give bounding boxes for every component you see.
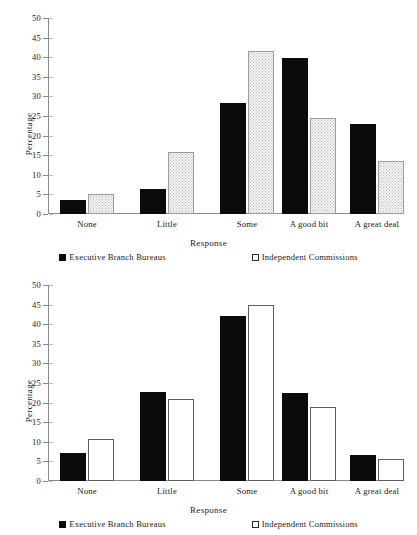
bar-group: Little (134, 285, 200, 481)
legend-label-independent-bottom: Independent Commissions (262, 519, 358, 529)
x-category-label: Some (214, 219, 280, 229)
bar-executive (350, 455, 376, 481)
bar-executive (220, 316, 246, 481)
chart-panel-top: Percentage 05101520253035404550 NoneLitt… (0, 0, 417, 267)
bar-group: Some (214, 18, 280, 214)
y-tick-label: 10 (32, 438, 41, 447)
x-category-label: None (54, 219, 120, 229)
y-tick-mark-inner (49, 481, 53, 482)
x-category-label: Little (134, 486, 200, 496)
y-tick-label: 45 (32, 300, 41, 309)
x-category-label: A great deal (344, 486, 410, 496)
x-axis-title-bottom: Response (0, 505, 417, 515)
x-category-label: A great deal (344, 219, 410, 229)
y-tick-label: 25 (32, 112, 41, 121)
bar-independent (378, 161, 404, 214)
legend-top: Executive Branch Bureaus Independent Com… (0, 252, 417, 262)
y-tick-label: 10 (32, 171, 41, 180)
bar-executive (140, 392, 166, 481)
x-category-label: Little (134, 219, 200, 229)
bar-executive (282, 393, 308, 481)
y-tick-mark (43, 214, 48, 215)
legend-item-executive-top: Executive Branch Bureaus (59, 252, 165, 262)
bar-group: None (54, 285, 120, 481)
bar-group-container-bottom: NoneLittleSomeA good bitA great deal (48, 285, 400, 481)
y-tick-label: 40 (32, 53, 41, 62)
y-tick-label: 35 (32, 340, 41, 349)
legend-item-independent-top: Independent Commissions (252, 252, 358, 262)
y-tick-label: 50 (32, 14, 41, 23)
legend-label-executive-bottom: Executive Branch Bureaus (69, 519, 165, 529)
y-tick-label: 20 (32, 131, 41, 140)
y-tick-label: 50 (32, 281, 41, 290)
bar-group: A good bit (276, 18, 342, 214)
bar-group: A good bit (276, 285, 342, 481)
filled-square-icon (59, 254, 66, 261)
plot-area-bottom: 05101520253035404550 NoneLittleSomeA goo… (48, 285, 400, 481)
y-tick-label: 25 (32, 379, 41, 388)
bar-executive (282, 58, 308, 214)
x-category-label: None (54, 486, 120, 496)
y-tick-mark-inner (49, 214, 53, 215)
bar-independent (168, 399, 194, 481)
legend-bottom: Executive Branch Bureaus Independent Com… (0, 519, 417, 529)
bar-group: A great deal (344, 18, 410, 214)
bar-executive (60, 200, 86, 214)
open-square-icon (252, 254, 259, 261)
filled-square-icon (59, 521, 66, 528)
bar-group: None (54, 18, 120, 214)
bar-executive (140, 189, 166, 214)
bar-group: Some (214, 285, 280, 481)
legend-label-executive-top: Executive Branch Bureaus (69, 252, 165, 262)
x-category-label: A good bit (276, 219, 342, 229)
y-tick-label: 15 (32, 418, 41, 427)
y-tick-label: 5 (37, 190, 41, 199)
bar-independent (310, 407, 336, 481)
bar-executive (220, 103, 246, 214)
legend-item-independent-bottom: Independent Commissions (252, 519, 358, 529)
bar-independent (168, 152, 194, 214)
bar-group-container-top: NoneLittleSomeA good bitA great deal (48, 18, 400, 214)
x-category-label: Some (214, 486, 280, 496)
x-category-label: A good bit (276, 486, 342, 496)
bar-group: Little (134, 18, 200, 214)
y-tick-label: 45 (32, 33, 41, 42)
y-tick-label: 40 (32, 320, 41, 329)
bar-independent (248, 51, 274, 214)
y-tick-label: 30 (32, 359, 41, 368)
y-tick-label: 0 (37, 477, 41, 486)
y-tick-label: 35 (32, 73, 41, 82)
y-tick-label: 20 (32, 398, 41, 407)
bar-independent (378, 459, 404, 481)
y-tick-label: 5 (37, 457, 41, 466)
bar-group: A great deal (344, 285, 410, 481)
bar-independent (88, 439, 114, 481)
y-tick-label: 0 (37, 210, 41, 219)
open-square-icon (252, 521, 259, 528)
y-tick-mark (43, 481, 48, 482)
y-tick-label: 15 (32, 151, 41, 160)
legend-item-executive-bottom: Executive Branch Bureaus (59, 519, 165, 529)
bar-independent (248, 305, 274, 481)
bar-independent (310, 118, 336, 214)
y-tick-label: 30 (32, 92, 41, 101)
legend-label-independent-top: Independent Commissions (262, 252, 358, 262)
bar-independent (88, 194, 114, 214)
bar-executive (350, 124, 376, 214)
chart-panel-bottom: Percentage 05101520253035404550 NoneLitt… (0, 267, 417, 534)
bar-executive (60, 453, 86, 481)
x-axis-title-top: Response (0, 238, 417, 248)
plot-area-top: 05101520253035404550 NoneLittleSomeA goo… (48, 18, 400, 214)
